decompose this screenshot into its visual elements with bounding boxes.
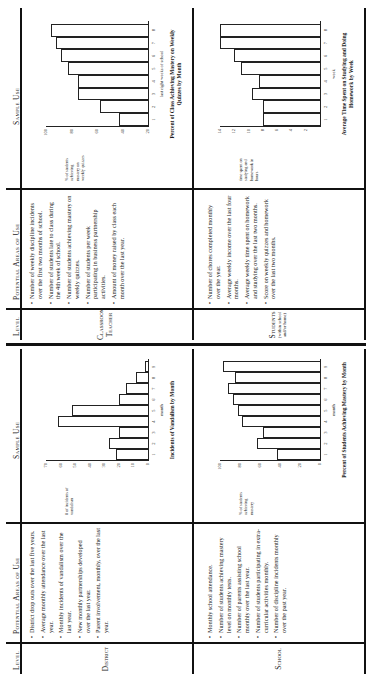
chart-bar xyxy=(68,62,148,75)
rotated-document-page: Level Potential Areas of Use Sample Use … xyxy=(0,0,389,682)
y-tick-label: 80 xyxy=(69,129,74,141)
chart-title: Incidents of Vandalism by Month xyxy=(169,359,176,481)
y-axis xyxy=(46,460,148,461)
x-tick-label: 1 xyxy=(323,115,328,125)
chart-bar xyxy=(263,113,320,126)
list-item: Monthly school attendance. xyxy=(206,528,214,638)
list-item: Amount of money raised by class each mon… xyxy=(110,194,126,304)
x-tick-label: 5 xyxy=(151,64,156,74)
header-sample: Sample Use xyxy=(12,88,21,125)
left-table: Level Potential Areas of Use Sample Use … xyxy=(6,349,366,674)
list-item: Number of students late to class during … xyxy=(47,194,63,304)
y-tick-label: 60 xyxy=(94,129,99,141)
x-tick-label: 3 xyxy=(151,428,156,438)
x-tick-label: 9 xyxy=(151,362,156,372)
column-rule xyxy=(6,523,364,525)
list-item: Number of weekly discipline incidents ov… xyxy=(28,194,44,304)
x-tick-label: 6 xyxy=(323,51,328,61)
header-areas: Potential Areas of Use xyxy=(12,557,21,634)
vandalism-chart: # of incidents of vandalism0102030405060… xyxy=(28,351,188,519)
y-axis-label: % of students achieving mastery xyxy=(238,485,254,515)
y-axis-label: % of students achieving mastery on weekl… xyxy=(64,151,85,181)
x-axis-label: last eight weeks of school xyxy=(159,21,164,127)
y-tick-label: 100 xyxy=(43,129,48,141)
row-divider xyxy=(192,8,194,340)
x-tick-label: 1 xyxy=(151,450,156,460)
y-tick-label: 20 xyxy=(297,463,302,475)
x-tick-label: 3 xyxy=(151,89,156,99)
chart-bar xyxy=(119,394,148,405)
x-tick-label: 4 xyxy=(323,417,328,427)
x-tick-label: 7 xyxy=(151,384,156,394)
chart-bar xyxy=(220,24,320,37)
x-tick-label: 1 xyxy=(323,450,328,460)
y-tick-label: 60 xyxy=(58,463,63,475)
x-axis xyxy=(148,21,149,127)
chart-bar xyxy=(263,427,320,438)
y-tick-label: 40 xyxy=(87,463,92,475)
level-students: Students (within school and/or home) xyxy=(268,310,288,340)
chart-bar xyxy=(51,24,148,37)
chart-bar xyxy=(58,416,148,427)
level-district: District xyxy=(101,644,110,674)
list-item: Number of students per week participatin… xyxy=(84,194,107,304)
list-item: Monthly incidents of vandalism over the … xyxy=(57,528,73,638)
chart-bar xyxy=(235,372,320,383)
chart-title: Average Time Spent on Studying and Doing… xyxy=(341,21,355,147)
header-level: Level xyxy=(12,317,21,336)
chart-bar xyxy=(234,49,320,62)
district-areas-list: District drop outs over the last five ye… xyxy=(28,528,113,638)
chart-bar xyxy=(109,438,148,449)
page-divider xyxy=(6,343,366,346)
school-areas-list: Monthly school attendance. Number of stu… xyxy=(206,528,291,638)
x-axis-label: week xyxy=(331,21,336,127)
column-rule xyxy=(6,643,364,645)
y-tick-label: 60 xyxy=(257,463,262,475)
x-tick-label: 5 xyxy=(323,64,328,74)
y-tick-label: 10 xyxy=(130,463,135,475)
y-tick-label: 14 xyxy=(217,129,222,141)
chart-bar xyxy=(238,405,320,416)
chart-bar xyxy=(257,438,320,449)
x-axis xyxy=(320,21,321,127)
x-tick-label: 5 xyxy=(151,406,156,416)
list-item: Average weekly income over the last four… xyxy=(225,194,241,304)
x-axis-label: month xyxy=(159,359,164,461)
y-tick-label: 8 xyxy=(260,129,265,141)
chart-bar xyxy=(220,37,320,50)
level-classroom-teacher: Classroom Teacher xyxy=(96,310,114,340)
y-axis xyxy=(220,126,320,127)
chart-bar xyxy=(78,88,148,101)
bottom-rule xyxy=(364,8,366,340)
y-tick-label: 70 xyxy=(43,463,48,475)
chart-bar xyxy=(241,62,320,75)
chart-bar xyxy=(223,361,320,372)
x-tick-label: 8 xyxy=(151,25,156,35)
list-item: Number of parents assisting school month… xyxy=(235,528,251,638)
x-tick-label: 1 xyxy=(151,115,156,125)
teacher-areas-list: Number of weekly discipline incidents ov… xyxy=(28,194,128,304)
x-tick-label: 8 xyxy=(151,373,156,383)
column-rule xyxy=(6,309,364,311)
x-tick-label: 7 xyxy=(323,38,328,48)
y-tick-label: 12 xyxy=(231,129,236,141)
y-tick-label: 20 xyxy=(116,463,121,475)
chart-bar xyxy=(233,394,320,405)
list-item: District drop outs over the last five ye… xyxy=(28,528,36,638)
x-tick-label: 5 xyxy=(323,406,328,416)
chart-bar xyxy=(116,449,148,460)
y-tick-label: 80 xyxy=(237,463,242,475)
list-item: New monthly partnerships developed over … xyxy=(76,528,92,638)
chart-bar xyxy=(277,449,320,460)
x-tick-label: 7 xyxy=(323,384,328,394)
chart-bar xyxy=(78,75,148,88)
chart-bar xyxy=(259,75,320,88)
y-tick-label: 4 xyxy=(288,129,293,141)
weekly-quiz-mastery-chart: % of students achieving mastery on weekl… xyxy=(28,13,188,185)
level-school: School xyxy=(274,644,283,674)
x-tick-label: 3 xyxy=(323,428,328,438)
chart-bar xyxy=(242,416,320,427)
list-item: Number of students achieving mastery lev… xyxy=(217,528,233,638)
list-item: Score on weekly quizzes and homework ove… xyxy=(262,194,278,304)
chart-bar xyxy=(228,383,320,394)
